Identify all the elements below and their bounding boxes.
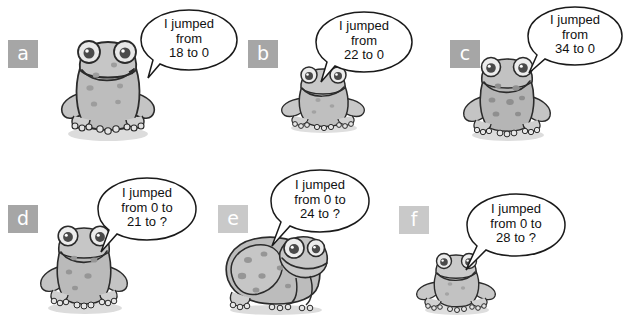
speech-bubble-shape-a xyxy=(138,8,240,82)
item-label-b: b xyxy=(248,40,278,68)
speech-bubble-shape-d xyxy=(95,176,199,256)
item-label-d-text: d xyxy=(17,209,29,228)
speech-bubble-e: I jumped from 0 to 24 to ? xyxy=(268,168,372,234)
item-label-b-text: b xyxy=(257,44,269,63)
item-label-a: a xyxy=(8,40,38,68)
speech-bubble-b: I jumped from 22 to 0 xyxy=(313,10,415,74)
item-label-f-text: f xyxy=(411,210,418,229)
item-label-d: d xyxy=(8,205,38,233)
speech-bubble-shape-b xyxy=(313,10,415,86)
speech-bubble-f: I jumped from 0 to 28 to ? xyxy=(464,192,568,258)
item-label-f: f xyxy=(399,206,429,234)
speech-bubble-shape-f xyxy=(464,192,568,274)
item-label-e-text: e xyxy=(227,209,239,228)
speech-bubble-shape-e xyxy=(268,168,372,250)
worksheet-canvas: a xyxy=(0,0,626,316)
item-label-a-text: a xyxy=(17,44,29,63)
speech-bubble-shape-c xyxy=(525,5,625,79)
speech-bubble-a: I jumped from 18 to 0 xyxy=(138,8,240,72)
speech-bubble-c: I jumped from 34 to 0 xyxy=(525,5,625,67)
speech-bubble-d: I jumped from 0 to 21 to ? xyxy=(95,176,199,242)
